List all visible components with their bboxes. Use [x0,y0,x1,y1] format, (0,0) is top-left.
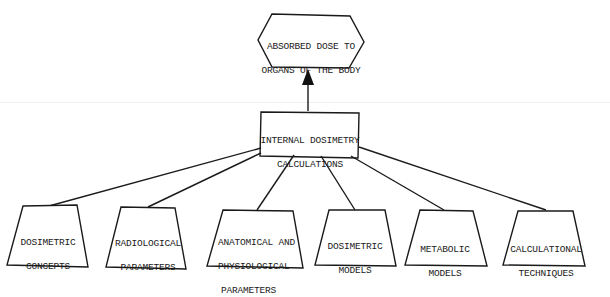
dosimetric-concepts-line2: CONCEPTS [12,261,84,273]
absorbed-dose-line2: ORGANS OF THE BODY [258,65,364,77]
metabolic-models-label: METABOLIC MODELS [410,232,480,292]
edge-radiological-parameters [148,153,261,207]
calculational-techniques-line2: TECHNIQUES [506,268,586,280]
radiological-parameters-line2: PARAMETERS [110,262,186,274]
radiological-parameters-label: RADIOLOGICAL PARAMETERS [110,226,186,286]
edge-dosimetric-concepts [49,148,261,206]
internal-dosimetry-label: INTERNAL DOSIMETRY CALCULATIONS [260,123,360,183]
anatomical-physiological-line3: PARAMETERS [218,285,300,297]
internal-dosimetry-line1: INTERNAL DOSIMETRY [260,135,360,147]
dosimetric-concepts-line1: DOSIMETRIC [12,237,84,249]
internal-dosimetry-line2: CALCULATIONS [260,159,360,171]
radiological-parameters-line1: RADIOLOGICAL [110,238,186,250]
anatomical-physiological-line2: PHYSIOLOGICAL [218,261,300,273]
metabolic-models-line1: METABOLIC [410,244,480,256]
dosimetric-models-label: DOSIMETRIC MODELS [320,229,390,289]
metabolic-models-line2: MODELS [410,268,480,280]
absorbed-dose-line1: ABSORBED DOSE TO [258,41,364,53]
dosimetric-concepts-label: DOSIMETRIC CONCEPTS [12,225,84,285]
dosimetric-models-line1: DOSIMETRIC [320,241,390,253]
dosimetric-models-line2: MODELS [320,265,390,277]
anatomical-physiological-label: ANATOMICAL AND PHYSIOLOGICAL PARAMETERS [214,225,300,297]
edge-calculational-techniques [359,147,546,210]
calculational-techniques-line1: CALCULATIONAL [506,244,586,256]
absorbed-dose-label: ABSORBED DOSE TO ORGANS OF THE BODY [258,29,364,89]
calculational-techniques-label: CALCULATIONAL TECHNIQUES [506,232,586,292]
edge-metabolic-models [351,156,444,210]
anatomical-physiological-line1: ANATOMICAL AND [218,237,300,249]
